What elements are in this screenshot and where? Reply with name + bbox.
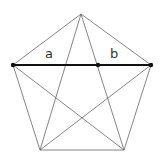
label-b: b <box>110 46 118 61</box>
pentagon-diagram: a b <box>0 0 161 161</box>
left-vertex-dot <box>11 63 15 67</box>
label-a: a <box>45 46 53 61</box>
pentagon-edges <box>13 14 151 150</box>
right-vertex-dot <box>149 63 153 67</box>
division-dot <box>96 63 100 67</box>
